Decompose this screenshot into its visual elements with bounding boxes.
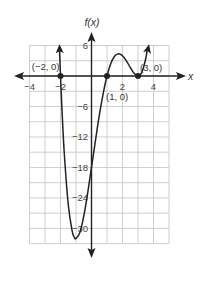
zero-point-marker [104, 73, 110, 79]
point-label: (−2, 0) [32, 61, 60, 72]
function-graph: x f(x) −4−2246−6−12−18−24−30 (−2, 0)(1, … [0, 0, 201, 281]
x-tick-label: 4 [151, 81, 156, 92]
zero-point-marker [58, 73, 64, 79]
y-tick-label: −18 [72, 162, 88, 173]
point-label: (1, 0) [106, 91, 128, 102]
grid [30, 46, 170, 244]
annotations: (−2, 0)(1, 0)(3, 0) [32, 61, 162, 102]
x-tick-label: −4 [24, 81, 35, 92]
zero-point-marker [135, 73, 141, 79]
y-tick-label: −12 [72, 131, 88, 142]
point-label: (3, 0) [140, 62, 162, 73]
y-tick-label: 6 [83, 40, 88, 51]
x-axis-label: x [187, 70, 194, 82]
y-tick-label: −6 [77, 101, 88, 112]
y-axis-label: f(x) [84, 16, 99, 28]
